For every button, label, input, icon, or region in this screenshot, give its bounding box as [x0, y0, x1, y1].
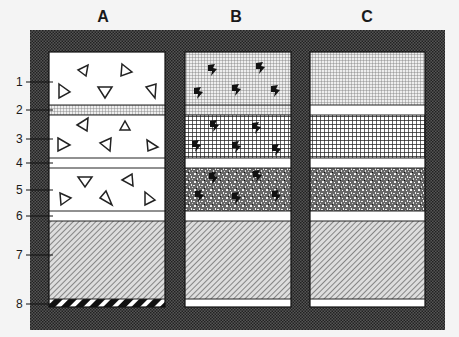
column-A	[49, 52, 165, 307]
layer-4-A	[49, 158, 165, 168]
layer-5-C	[310, 168, 425, 211]
layer-6-B	[185, 211, 291, 221]
layer-4-B	[185, 158, 291, 168]
layer-7-B	[185, 221, 291, 299]
layer-label-3: 3	[16, 132, 23, 146]
layer-label-4: 4	[16, 156, 23, 170]
layer-6-C	[310, 211, 425, 221]
layer-8-C	[310, 299, 425, 307]
stratigraphy-diagram	[0, 0, 459, 337]
layer-1-B	[185, 52, 291, 105]
layer-label-6: 6	[16, 209, 23, 223]
layer-7-C	[310, 221, 425, 299]
layer-5-B	[185, 168, 291, 211]
layer-7-A	[49, 221, 165, 299]
layer-8-A	[49, 299, 165, 307]
layer-label-1: 1	[16, 75, 23, 89]
column-C	[310, 52, 425, 307]
layer-1-C	[310, 52, 425, 105]
layer-4-C	[310, 158, 425, 168]
column-title-A: A	[93, 8, 113, 26]
layer-8-B	[185, 299, 291, 307]
layer-2-B	[185, 105, 291, 115]
layer-6-A	[49, 211, 165, 221]
layer-1-A	[49, 52, 165, 105]
layer-label-5: 5	[16, 183, 23, 197]
layer-label-8: 8	[16, 297, 23, 311]
column-title-B: B	[226, 8, 246, 26]
layer-2-C	[310, 105, 425, 115]
layer-2-A	[49, 105, 165, 115]
layer-3-B	[185, 115, 291, 158]
layer-label-2: 2	[16, 103, 23, 117]
column-B	[185, 52, 291, 307]
layer-label-7: 7	[16, 248, 23, 262]
layer-3-C	[310, 115, 425, 158]
layer-5-A	[49, 168, 165, 211]
column-title-C: C	[357, 8, 377, 26]
